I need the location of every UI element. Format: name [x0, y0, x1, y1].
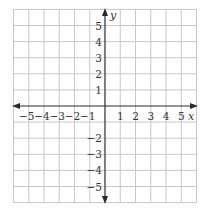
y-axis-label: y: [109, 9, 117, 22]
x-tick-label: −1: [80, 110, 95, 122]
x-tick-label: 2: [132, 110, 139, 122]
x-tick-label: −3: [50, 110, 65, 122]
x-tick-label: 3: [147, 110, 154, 122]
x-tick-label: −2: [65, 110, 80, 122]
x-axis-label: x: [188, 110, 195, 123]
y-tick-label: −4: [87, 164, 103, 176]
coordinate-plane: −5−4−3−2−112345 54321−2−3−4−5 x y: [0, 0, 209, 215]
y-tick-label: 1: [95, 84, 102, 96]
x-tick-label: −4: [34, 110, 50, 122]
y-tick-label: 5: [95, 20, 102, 32]
x-tick-label: 5: [178, 110, 185, 122]
axes: [12, 8, 198, 204]
y-tick-label: 3: [95, 52, 102, 64]
y-tick-label: −5: [87, 181, 102, 193]
y-tick-label: −3: [87, 148, 102, 160]
x-tick-label: −5: [19, 110, 34, 122]
y-tick-label: 2: [95, 68, 102, 80]
x-tick-labels: −5−4−3−2−112345: [19, 110, 185, 122]
x-tick-label: 1: [117, 110, 124, 122]
x-tick-label: 4: [163, 110, 170, 122]
y-tick-label: −2: [87, 132, 102, 144]
y-tick-label: 4: [95, 36, 102, 48]
